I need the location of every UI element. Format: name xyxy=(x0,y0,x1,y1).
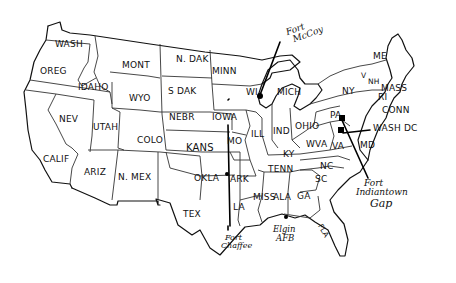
state-label-ny: NY xyxy=(342,87,355,96)
state-label-ca: CALIF xyxy=(43,155,69,164)
state-label-mi: MICH xyxy=(277,88,301,97)
state-label-mt: MONT xyxy=(122,61,150,70)
state-label-id: IDAHO xyxy=(78,83,108,92)
elgin-afb-line2: AFB xyxy=(276,234,296,243)
state-label-in: IND xyxy=(273,127,290,136)
state-label-ks: KANS xyxy=(186,143,214,153)
fort-indiantown-gap-line3: Gap xyxy=(370,198,408,210)
state-label-co: COLO xyxy=(137,136,163,145)
label-elgin-afb: Elgin AFB xyxy=(273,225,296,243)
label-fort-chaffee: Fort Chaffee xyxy=(221,234,252,251)
state-label-dc: WASH DC xyxy=(373,124,418,133)
state-label-nc: NC xyxy=(320,162,333,171)
state-label-la: LA xyxy=(233,203,245,212)
state-label-oh: OHIO xyxy=(295,122,319,131)
state-label-nv: NEV xyxy=(59,115,78,124)
state-label-ct: CONN xyxy=(382,106,410,115)
state-label-tn: TENN xyxy=(268,165,293,174)
state-label-tx: TEX xyxy=(183,210,201,219)
state-label-nh: NH xyxy=(368,78,380,86)
state-label-or: OREG xyxy=(40,67,67,76)
state-label-mo: MO xyxy=(227,137,242,146)
state-label-ga: GA xyxy=(297,192,311,201)
state-label-ri: RI xyxy=(378,93,387,102)
state-label-ok: OKLA xyxy=(194,174,219,183)
state-label-ky: KY xyxy=(283,150,294,159)
label-fort-indiantown-gap: Fort Indiantown Gap xyxy=(356,179,408,209)
fort-chaffee-line2: Chaffee xyxy=(221,242,252,250)
state-label-me: ME xyxy=(373,52,387,61)
state-label-al: ALA xyxy=(273,193,291,202)
state-label-wy: WYO xyxy=(129,94,151,103)
wash-dc-marker xyxy=(338,127,344,133)
state-label-pa: PA xyxy=(330,111,341,120)
state-label-wa: WASH xyxy=(55,40,83,49)
state-label-wi: WI xyxy=(246,88,258,97)
us-map: WASH OREG IDAHO MONT WYO NEV UTAH COLO C… xyxy=(0,0,456,283)
fort-chaffee-marker xyxy=(225,172,229,176)
state-label-ia: IOWA xyxy=(212,113,237,122)
state-label-sd: S DAK xyxy=(168,87,196,96)
state-label-ne: NEBR xyxy=(169,113,195,122)
elgin-afb-marker xyxy=(284,215,288,219)
state-label-wv: WVA xyxy=(306,140,327,149)
state-label-sc: SC xyxy=(315,175,327,184)
state-label-ut: UTAH xyxy=(93,123,118,132)
state-label-ar: ARK xyxy=(230,175,249,184)
state-label-nm: N. MEX xyxy=(118,173,151,182)
state-label-nd: N. DAK xyxy=(176,55,209,64)
state-label-md: MD xyxy=(360,141,375,150)
state-label-il: ILL xyxy=(251,130,264,139)
state-label-mn: MINN xyxy=(212,67,237,76)
state-label-va: VA xyxy=(332,142,344,151)
state-label-az: ARIZ xyxy=(84,168,106,177)
state-label-vt: V xyxy=(361,72,366,80)
